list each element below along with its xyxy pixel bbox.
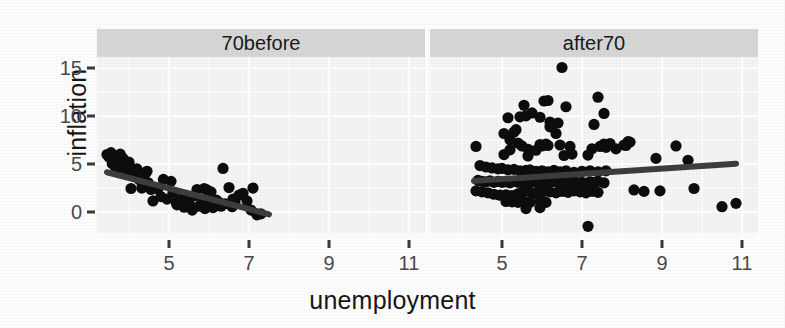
x-tick-label: 7	[229, 252, 269, 275]
facet-strip-after70: after70	[430, 29, 758, 57]
y-tick-mark	[87, 67, 95, 70]
y-tick-mark	[87, 210, 95, 213]
x-tick-mark	[501, 240, 504, 248]
x-tick-label: 7	[562, 252, 602, 275]
x-tick-mark	[248, 240, 251, 248]
facet-strip-label: after70	[563, 32, 625, 55]
scatter-panel-70before	[97, 57, 425, 233]
x-tick-mark	[328, 240, 331, 248]
y-tick-mark	[87, 163, 95, 166]
y-tick-label: 0	[38, 200, 82, 223]
x-tick-label: 5	[482, 252, 522, 275]
x-tick-label: 5	[149, 252, 189, 275]
x-tick-mark	[408, 240, 411, 248]
scatter-panel-after70	[430, 57, 758, 233]
facet-strip-label: 70before	[222, 32, 301, 55]
x-axis-title: unemployment	[0, 286, 785, 315]
x-tick-mark	[741, 240, 744, 248]
x-tick-label: 11	[389, 252, 429, 275]
x-tick-mark	[168, 240, 171, 248]
y-tick-label: 5	[38, 153, 82, 176]
x-tick-label: 9	[309, 252, 349, 275]
x-tick-mark	[661, 240, 664, 248]
x-tick-label: 9	[642, 252, 682, 275]
y-tick-label: 15	[38, 57, 82, 80]
y-tick-label: 10	[38, 105, 82, 128]
data-points	[470, 62, 741, 232]
chart-root: inflation unemployment 051015 5791157911…	[0, 0, 785, 328]
x-tick-label: 11	[722, 252, 762, 275]
x-tick-mark	[581, 240, 584, 248]
y-tick-mark	[87, 115, 95, 118]
facet-strip-70before: 70before	[97, 29, 425, 57]
